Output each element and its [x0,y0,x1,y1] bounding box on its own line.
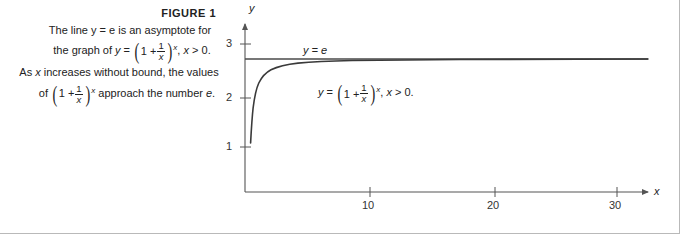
curve-label-equals: = [324,86,337,98]
curve-label-one: 1 + [344,88,360,100]
curve-label-expression: (1 +1x)x [336,82,380,105]
left-paren-glyph-3: ( [338,82,343,105]
fraction-denominator-3: x [360,93,367,104]
chart-svg [0,0,680,234]
x-tick-label-10: 10 [362,199,374,211]
curve-label-exponent: x [376,85,380,94]
y-tick-label-3: 3 [226,37,232,49]
fraction-numerator-3: 1 [360,83,367,93]
x-axis-label: x [654,185,660,197]
y-tick-label-1: 1 [226,140,232,152]
curve-label-suffix-rel: > 0. [392,86,414,98]
y-tick-label-2: 2 [226,91,232,103]
asymptote-label: y = e [303,44,327,56]
x-tick-label-30: 30 [609,199,621,211]
right-paren-glyph-3: ) [370,82,375,105]
exponential-curve [251,59,648,143]
chart-plot-area: y x 1 2 3 10 20 30 y = e y = (1 +1x)x, x… [0,0,680,234]
curve-label-fraction: 1x [360,83,367,104]
x-tick-label-20: 20 [487,199,499,211]
y-axis-label: y [249,2,255,14]
curve-label: y = (1 +1x)x, x > 0. [318,82,414,105]
